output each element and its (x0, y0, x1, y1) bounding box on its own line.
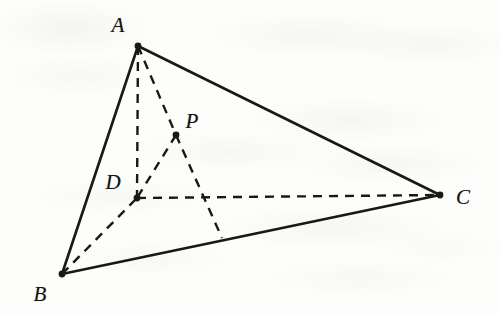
edge-AP (138, 46, 176, 135)
edge-BD (62, 198, 137, 274)
vertex-label-c: C (456, 187, 470, 208)
vertex-dots-group (59, 43, 444, 278)
vertex-dot-c (437, 192, 444, 199)
vertex-label-d: D (105, 172, 120, 193)
diagram-page: ABCDP (0, 0, 500, 316)
vertex-label-p: P (186, 111, 199, 132)
dashed-edges-group (62, 46, 440, 274)
vertex-dot-a (135, 43, 142, 50)
vertex-dot-p (173, 132, 180, 139)
vertex-dot-b (59, 271, 66, 278)
edge-AB (62, 46, 138, 274)
edge-AC (138, 46, 440, 195)
solid-edges-group (62, 46, 440, 274)
tetrahedron-figure (0, 0, 500, 316)
edge-PD (137, 135, 176, 198)
vertex-label-a: A (112, 15, 125, 36)
edge-PF (176, 135, 222, 238)
vertex-dot-d (134, 195, 141, 202)
vertex-label-b: B (34, 284, 47, 305)
edge-AD (137, 46, 138, 198)
edge-DC (137, 195, 440, 198)
edge-BC (62, 195, 440, 274)
